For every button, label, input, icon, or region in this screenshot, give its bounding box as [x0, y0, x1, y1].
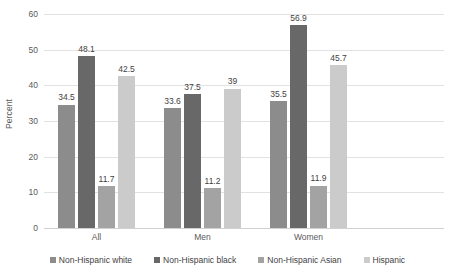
- x-axis-category-label: All: [92, 232, 101, 242]
- bar[interactable]: [224, 89, 241, 228]
- bar[interactable]: [290, 25, 307, 228]
- bar-slot: 34.5: [58, 14, 75, 228]
- bar-slot: 39: [224, 14, 241, 228]
- legend-swatch-icon: [50, 257, 56, 263]
- y-axis-title-text: Percent: [4, 99, 14, 129]
- bar-value-label: 39: [228, 77, 237, 86]
- bar-slot: 42.5: [118, 14, 135, 228]
- bar-slot: 11.9: [310, 14, 327, 228]
- legend-item[interactable]: Hispanic: [364, 255, 406, 265]
- bar-slot: 48.1: [78, 14, 95, 228]
- y-axis-tick-label: 0: [33, 223, 38, 233]
- y-axis-tick-label: 60: [29, 9, 38, 19]
- legend-label: Hispanic: [373, 255, 406, 265]
- bar-slot: 56.9: [290, 14, 307, 228]
- bar-value-label: 11.9: [311, 174, 327, 183]
- bar-slot: 37.5: [184, 14, 201, 228]
- bar[interactable]: [330, 65, 347, 228]
- legend-swatch-icon: [364, 257, 370, 263]
- bar[interactable]: [118, 76, 135, 228]
- bar-value-label: 33.6: [164, 97, 181, 106]
- bar-group: 35.556.911.945.7: [270, 14, 347, 228]
- legend-item[interactable]: Non-Hispanic white: [50, 255, 132, 265]
- x-axis-category-label: Women: [294, 232, 323, 242]
- legend-label: Non-Hispanic white: [59, 255, 132, 265]
- x-axis-category-label: Men: [194, 232, 211, 242]
- bar[interactable]: [184, 94, 201, 228]
- bar-value-label: 45.7: [330, 54, 347, 63]
- bar-slot: 35.5: [270, 14, 287, 228]
- x-axis-category-labels: AllMenWomen: [44, 232, 444, 248]
- bar-slot: 45.7: [330, 14, 347, 228]
- bar[interactable]: [164, 108, 181, 228]
- bar[interactable]: [270, 101, 287, 228]
- bar-group: 34.548.111.742.5: [58, 14, 135, 228]
- bar-value-label: 37.5: [184, 83, 201, 92]
- legend-item[interactable]: Non-Hispanic black: [154, 255, 236, 265]
- bar-chart: Percent 0102030405060 34.548.111.742.533…: [0, 0, 455, 278]
- bar-value-label: 35.5: [270, 90, 287, 99]
- y-axis-tick-label: 50: [29, 45, 38, 55]
- y-axis-tick-label: 40: [29, 80, 38, 90]
- bar-groups: 34.548.111.742.533.637.511.23935.556.911…: [44, 14, 444, 228]
- bar-value-label: 11.7: [99, 175, 115, 184]
- legend-item[interactable]: Non-Hispanic Asian: [258, 255, 341, 265]
- y-axis-tick-label: 20: [29, 152, 38, 162]
- legend-label: Non-Hispanic black: [163, 255, 236, 265]
- bar-value-label: 42.5: [118, 65, 135, 74]
- bar-value-label: 56.9: [290, 14, 307, 23]
- bar-value-label: 48.1: [78, 45, 95, 54]
- y-axis-tick-label: 10: [29, 187, 38, 197]
- legend-label: Non-Hispanic Asian: [267, 255, 341, 265]
- bar-value-label: 11.2: [205, 177, 221, 186]
- y-axis-tick-label: 30: [29, 116, 38, 126]
- bar-slot: 11.7: [98, 14, 115, 228]
- chart-legend: Non-Hispanic whiteNon-Hispanic blackNon-…: [0, 255, 455, 265]
- gridline: [44, 228, 444, 229]
- bar[interactable]: [58, 105, 75, 228]
- y-axis-title: Percent: [2, 0, 16, 228]
- bar[interactable]: [204, 188, 221, 228]
- legend-swatch-icon: [258, 257, 264, 263]
- bar-slot: 11.2: [204, 14, 221, 228]
- bar-group: 33.637.511.239: [164, 14, 241, 228]
- bar[interactable]: [78, 56, 95, 228]
- bar-slot: 33.6: [164, 14, 181, 228]
- bar-value-label: 34.5: [58, 93, 75, 102]
- bar[interactable]: [310, 186, 327, 228]
- plot-area: 0102030405060 34.548.111.742.533.637.511…: [44, 14, 444, 228]
- legend-swatch-icon: [154, 257, 160, 263]
- bar[interactable]: [98, 186, 115, 228]
